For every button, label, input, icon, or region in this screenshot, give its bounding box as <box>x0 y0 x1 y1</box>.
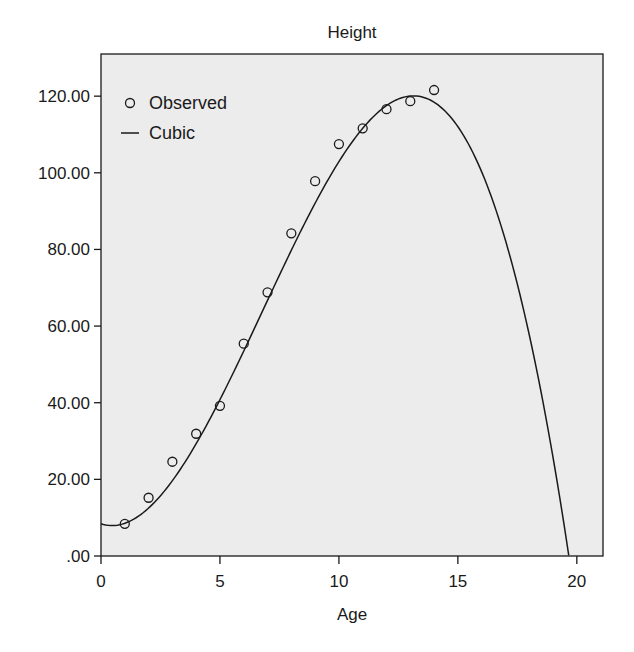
y-tick-label: 20.00 <box>47 470 90 489</box>
y-tick-label: 40.00 <box>47 394 90 413</box>
y-tick-label: 80.00 <box>47 240 90 259</box>
chart: Height .0020.0040.0060.0080.00100.00120.… <box>0 0 634 652</box>
y-tick-label: 100.00 <box>38 164 90 183</box>
x-tick-label: 15 <box>448 572 467 591</box>
x-tick-label: 5 <box>215 572 224 591</box>
y-tick-label: 60.00 <box>47 317 90 336</box>
x-tick-label: 10 <box>329 572 348 591</box>
y-tick-label: 120.00 <box>38 87 90 106</box>
y-tick-label: .00 <box>66 547 90 566</box>
y-axis: .0020.0040.0060.0080.00100.00120.00 <box>38 87 101 566</box>
x-axis-label: Age <box>337 605 367 624</box>
chart-title: Height <box>327 23 376 42</box>
x-tick-label: 20 <box>567 572 586 591</box>
x-tick-label: 0 <box>96 572 105 591</box>
x-axis: 05101520 <box>96 556 586 591</box>
legend-observed-label: Observed <box>149 93 227 113</box>
legend-cubic-label: Cubic <box>149 123 195 143</box>
